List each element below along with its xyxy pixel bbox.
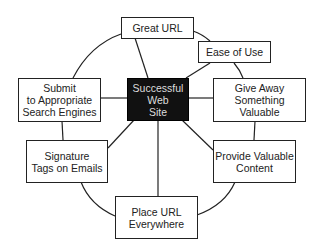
node-submit-search-engines: Submit to Appropriate Search Engines [18,78,101,122]
node-signature-tags: Signature Tags on Emails [26,140,108,183]
node-successful-web-site: Successful Web Site [127,78,189,121]
node-ease-of-use: Ease of Use [198,41,271,63]
node-place-url: Place URL Everywhere [115,196,198,239]
node-provide-content: Provide Valuable Content [213,140,296,183]
node-great-url: Great URL [121,17,194,39]
node-give-away: Give Away Something Valuable [213,78,306,122]
